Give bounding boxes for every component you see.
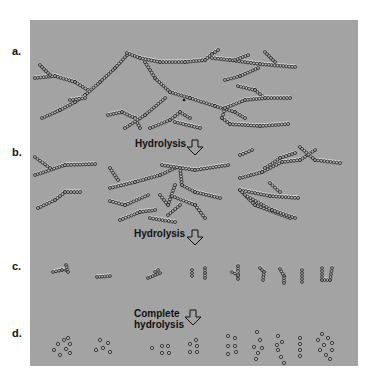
hydrolysis-diagram: [0, 0, 370, 380]
down-arrow-icon-1: [187, 140, 203, 155]
down-arrow-icon-2: [187, 230, 203, 245]
down-arrow-icon-3: [185, 310, 201, 325]
polysaccharide-chains: [34, 48, 342, 284]
monosaccharide-units: [52, 330, 333, 364]
